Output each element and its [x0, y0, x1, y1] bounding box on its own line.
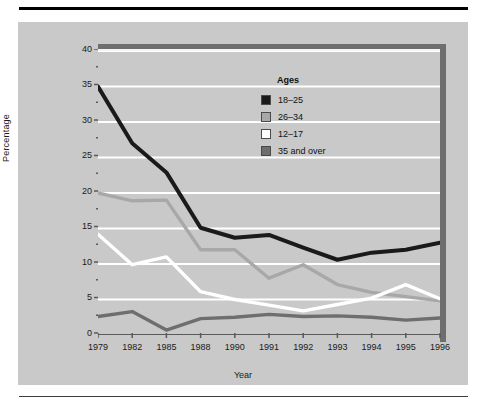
y-axis-title: Percentage	[1, 114, 11, 162]
chart-legend: Ages 18–2526–3412–1735 and over	[261, 75, 367, 159]
x-tick-label: 1985	[156, 342, 176, 352]
x-tick-label: 1990	[225, 342, 245, 352]
x-tick-label: 1991	[259, 342, 279, 352]
series-line	[98, 312, 440, 330]
x-tick-label: 1979	[88, 342, 108, 352]
legend-item: 18–25	[261, 91, 367, 108]
legend-swatch-icon	[261, 129, 271, 139]
x-tick-label: 1988	[191, 342, 211, 352]
x-axis-title: Year	[18, 370, 468, 380]
y-tick-label: 30	[66, 116, 92, 125]
y-tick-label: 40	[66, 45, 92, 54]
y-tick-label: 5	[66, 293, 92, 302]
legend-item-label: 18–25	[278, 95, 303, 105]
legend-swatch-icon	[261, 95, 271, 105]
x-tick-label: 1995	[396, 342, 416, 352]
x-tick-label: 1996	[430, 342, 450, 352]
legend-swatch-icon	[261, 112, 271, 122]
figure-panel: 0510152025303540 Percentage 197919821985…	[18, 22, 468, 385]
page-rule-bottom	[19, 396, 468, 397]
legend-item-label: 35 and over	[278, 146, 326, 156]
legend-item-label: 26–34	[278, 112, 303, 122]
legend-swatch-icon	[261, 146, 271, 156]
legend-item: 12–17	[261, 125, 367, 142]
x-tick-label: 1994	[362, 342, 382, 352]
x-tick-label: 1992	[293, 342, 313, 352]
y-tick-label: 0	[66, 329, 92, 338]
y-tick-label: 35	[66, 80, 92, 89]
x-axis-ticks: 1979198219851988199019911992199319941995…	[98, 338, 440, 352]
x-tick-marks	[98, 333, 444, 339]
y-tick-label: 20	[66, 187, 92, 196]
legend-item: 35 and over	[261, 142, 367, 159]
plot-frame-right	[440, 44, 446, 342]
y-axis-ticks: 0510152025303540	[62, 49, 92, 333]
series-line	[98, 193, 440, 301]
x-tick-label: 1993	[327, 342, 347, 352]
page-rule-top	[19, 7, 468, 10]
y-tick-label: 15	[66, 222, 92, 231]
y-tick-label: 10	[66, 258, 92, 267]
y-tick-label: 25	[66, 151, 92, 160]
x-tick-label: 1982	[122, 342, 142, 352]
legend-item-label: 12–17	[278, 129, 303, 139]
legend-item: 26–34	[261, 108, 367, 125]
plot-wrapper: 0510152025303540 Percentage 197919821985…	[18, 22, 468, 385]
legend-title: Ages	[277, 75, 367, 85]
